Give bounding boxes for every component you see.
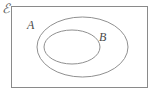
universal-set-label: ℰ	[2, 2, 10, 15]
set-b-label: B	[99, 31, 106, 43]
diagram-canvas	[0, 0, 158, 97]
set-a-label: A	[27, 19, 34, 31]
euler-diagram-figure: ℰ A B	[0, 0, 158, 97]
